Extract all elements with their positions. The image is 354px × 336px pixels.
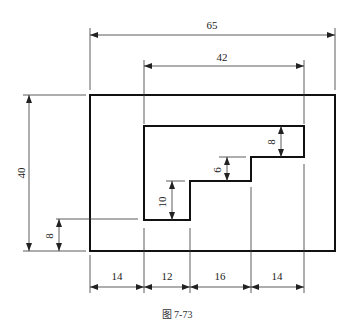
dimension-lines bbox=[29, 35, 335, 287]
inner-stepped-shape bbox=[144, 126, 304, 220]
dim-overall-width: 65 bbox=[207, 19, 219, 31]
dim-bottom-seg-1: 14 bbox=[112, 270, 124, 282]
dim-step-middle: 6 bbox=[211, 167, 223, 173]
dim-step-right: 8 bbox=[265, 139, 277, 145]
extension-lines bbox=[23, 28, 335, 293]
technical-drawing: 65 42 40 8 10 6 8 14 12 16 14 图 7-73 bbox=[0, 0, 354, 336]
dim-bottom-seg-2: 12 bbox=[162, 270, 173, 282]
dim-bottom-seg-4: 14 bbox=[272, 270, 284, 282]
dim-inner-width: 42 bbox=[217, 51, 228, 63]
dim-bottom-seg-3: 16 bbox=[215, 270, 227, 282]
figure-caption: 图 7-73 bbox=[162, 309, 193, 320]
dim-bottom-offset: 8 bbox=[43, 233, 55, 239]
dim-overall-height: 40 bbox=[15, 167, 27, 179]
dim-step-left: 10 bbox=[156, 196, 168, 208]
